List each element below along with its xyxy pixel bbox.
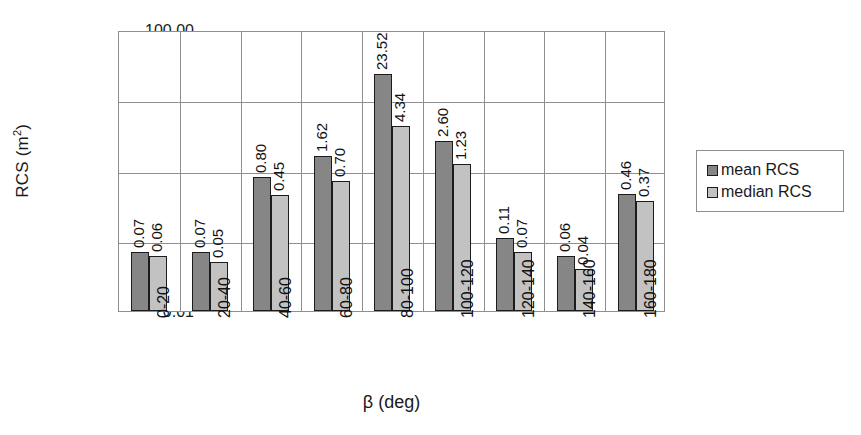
legend-swatch-mean-icon (707, 165, 718, 176)
bar-value-median-160-180: 0.37 (636, 168, 651, 197)
bar-mean-140-160[interactable] (557, 256, 575, 311)
bar-value-mean-120-140: 0.11 (496, 206, 511, 234)
bar-mean-80-100[interactable] (374, 74, 392, 311)
bar-mean-160-180[interactable] (618, 194, 636, 311)
bar-value-median-100-120: 1.23 (453, 131, 468, 160)
bar-value-median-120-140: 0.07 (514, 218, 529, 247)
bar-value-median-0-20: 0.06 (149, 223, 164, 252)
bar-mean-40-60[interactable] (253, 177, 271, 311)
x-tick-label-80-100: 80-100 (400, 268, 416, 318)
bar-value-mean-100-120: 2.60 (435, 108, 450, 137)
bar-value-median-20-40: 0.05 (210, 229, 225, 258)
x-tick-label-0-20: 0-20 (156, 286, 172, 318)
y-axis-title: RCS (m2) (11, 101, 33, 221)
bar-value-mean-140-160: 0.06 (557, 223, 572, 252)
legend-label-mean: mean RCS (721, 162, 799, 178)
bar-value-mean-60-80: 1.62 (314, 123, 329, 152)
x-tick-label-40-60: 40-60 (278, 277, 294, 318)
x-tick-label-60-80: 60-80 (339, 277, 355, 318)
bar-value-mean-20-40: 0.07 (192, 218, 207, 247)
bar-value-mean-40-60: 0.80 (253, 144, 268, 173)
bar-group-20-40: 0.070.05 (180, 32, 241, 311)
bar-value-median-40-60: 0.45 (271, 162, 286, 191)
x-axis-title: β (deg) (118, 392, 665, 413)
legend-label-median: median RCS (721, 184, 812, 200)
x-tick-label-100-120: 100-120 (460, 259, 476, 318)
bar-mean-20-40[interactable] (192, 252, 210, 311)
y-axis-title-superscript: 2 (11, 130, 23, 136)
bar-group-0-20: 0.070.06 (119, 32, 180, 311)
y-axis-title-text: RCS (m (13, 136, 32, 198)
x-tick-label-20-40: 20-40 (217, 277, 233, 318)
bar-mean-120-140[interactable] (496, 238, 514, 311)
bar-mean-100-120[interactable] (435, 141, 453, 311)
bar-value-median-60-80: 0.70 (332, 148, 347, 177)
bar-value-mean-0-20: 0.07 (131, 218, 146, 247)
bar-value-mean-160-180: 0.46 (618, 161, 633, 190)
x-tick-label-140-160: 140-160 (582, 259, 598, 318)
legend-swatch-median-icon (707, 187, 718, 198)
bar-group-60-80: 1.620.70 (301, 32, 362, 311)
bar-value-mean-80-100: 23.52 (374, 33, 389, 71)
legend-item-median[interactable]: median RCS (707, 181, 833, 203)
x-tick-label-160-180: 160-180 (643, 259, 659, 318)
bar-mean-0-20[interactable] (131, 252, 149, 311)
bar-value-median-80-100: 4.34 (392, 93, 407, 122)
y-axis-title-paren: ) (13, 124, 32, 130)
x-tick-label-120-140: 120-140 (521, 259, 537, 318)
bar-group-40-60: 0.800.45 (241, 32, 302, 311)
bar-mean-60-80[interactable] (314, 156, 332, 311)
legend-item-mean[interactable]: mean RCS (707, 159, 833, 181)
rcs-bar-chart: RCS (m2) 100.0010.001.000.100.01 0.070.0… (0, 0, 861, 435)
chart-legend: mean RCS median RCS (696, 150, 844, 212)
